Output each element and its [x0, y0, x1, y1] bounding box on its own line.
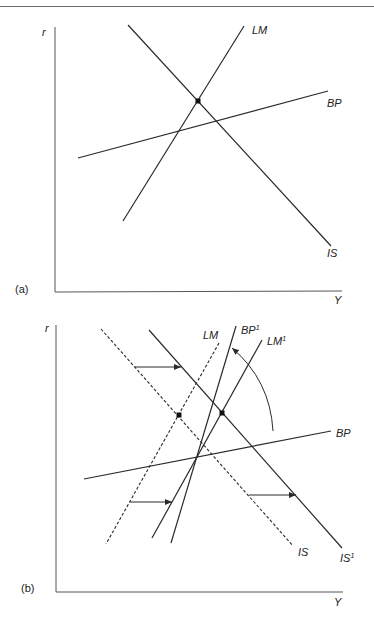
- panel-b-bp-rotation-arrow: [232, 348, 273, 431]
- panel-b-is1-curve: [149, 330, 342, 548]
- panel-b-is1-label: IS1: [340, 552, 354, 564]
- panel-b-is-curve-dashed: [101, 329, 293, 546]
- panel-b-bp1-curve: [171, 326, 236, 543]
- panel-b-x-label: Y: [334, 596, 342, 608]
- panel-b-lm1-label: LM1: [267, 335, 286, 347]
- bp1-superscript: 1: [256, 324, 260, 331]
- panel-b-is-label: IS: [298, 546, 309, 558]
- panel-b-bp-label: BP: [336, 427, 351, 439]
- lm1-superscript: 1: [282, 335, 286, 342]
- lm1-base: LM: [267, 335, 283, 347]
- panel-b-lm-label: LM: [203, 329, 219, 341]
- is1-superscript: 1: [350, 552, 354, 559]
- panel-b-tag: (b): [21, 582, 34, 594]
- panel-b-new-equilibrium-point: [220, 411, 225, 416]
- panel-b-initial-equilibrium-point: [177, 413, 182, 418]
- bp1-base: BP: [241, 324, 256, 336]
- panel-b-y-label: r: [45, 322, 50, 334]
- panel-b-bp1-label: BP1: [241, 324, 260, 336]
- is1-base: IS: [340, 552, 351, 564]
- panel-b-diagram: r Y LM BP1 LM1 BP IS IS1 (b): [0, 0, 374, 620]
